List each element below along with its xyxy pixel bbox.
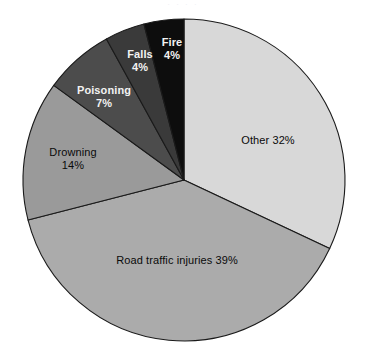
pie-slice-group [23, 19, 345, 341]
pie-chart-figure: · · · · Other 32% Road traffic injuries … [0, 0, 366, 347]
pie-chart-svg [0, 0, 366, 347]
